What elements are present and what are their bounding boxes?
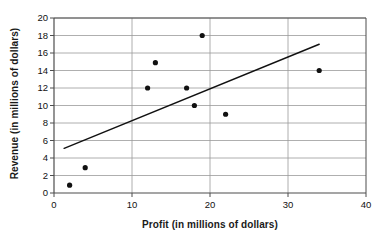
y-tick-label: 12 [26,82,48,93]
y-tick-label: 4 [26,152,48,163]
y-tick-label: 2 [26,170,48,181]
x-tick-label: 20 [199,199,221,210]
x-tick-label: 0 [43,199,65,210]
data-point [200,33,205,38]
scatter-chart: Revenue (in millions of dollars) Profit … [0,0,388,243]
y-tick-label: 10 [26,100,48,111]
data-point [83,165,88,170]
x-tick-label: 30 [277,199,299,210]
x-tick-label: 40 [355,199,377,210]
data-point [153,60,158,65]
data-point [184,85,189,90]
y-tick-label: 16 [26,47,48,58]
x-tick-label: 10 [121,199,143,210]
data-point [67,183,72,188]
data-point [145,85,150,90]
y-tick-label: 8 [26,117,48,128]
y-tick-label: 20 [26,12,48,23]
y-tick-label: 0 [26,187,48,198]
data-point [192,103,197,108]
data-point [317,68,322,73]
y-tick-label: 6 [26,135,48,146]
data-point [223,112,228,117]
y-tick-label: 14 [26,65,48,76]
y-tick-label: 18 [26,30,48,41]
